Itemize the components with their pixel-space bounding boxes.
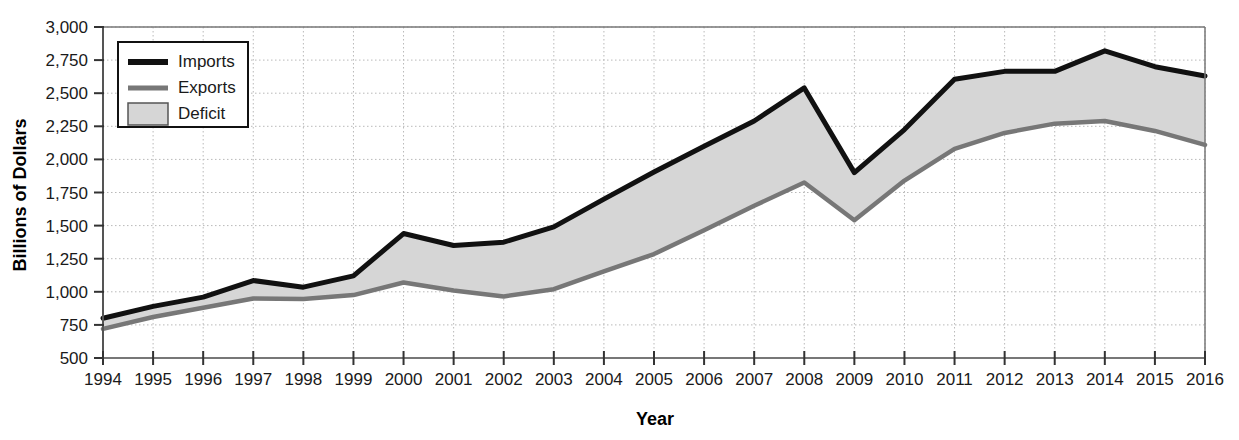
y-axis-tick-label: 1,000 xyxy=(45,283,88,302)
trade-balance-chart: 5007501,0001,2501,5001,7502,0002,2502,50… xyxy=(0,0,1239,440)
y-axis-tick-label: 2,750 xyxy=(45,51,88,70)
x-axis-tick-label: 2013 xyxy=(1036,370,1074,389)
x-axis-tick-label: 1997 xyxy=(234,370,272,389)
x-axis-tick-label: 2008 xyxy=(785,370,823,389)
x-axis-tick-label: 2005 xyxy=(635,370,673,389)
x-axis-tick-label: 1995 xyxy=(134,370,172,389)
x-axis-tick-label: 1999 xyxy=(335,370,373,389)
y-axis-tick-label: 1,750 xyxy=(45,184,88,203)
x-axis-tick-label: 2001 xyxy=(435,370,473,389)
legend-label-exports: Exports xyxy=(178,78,236,97)
legend-label-imports: Imports xyxy=(178,52,235,71)
y-axis-tick-label: 1,500 xyxy=(45,217,88,236)
y-axis-tick-label: 2,250 xyxy=(45,117,88,136)
x-axis-tick-label: 2007 xyxy=(735,370,773,389)
y-axis-title: Billions of Dollars xyxy=(10,118,30,271)
chart-legend: ImportsExportsDeficit xyxy=(118,42,248,127)
legend-items: ImportsExportsDeficit xyxy=(128,52,236,125)
x-axis-tick-label: 1994 xyxy=(84,370,122,389)
x-axis-tick-label: 2002 xyxy=(485,370,523,389)
x-axis-tick-label: 1996 xyxy=(184,370,222,389)
x-axis-tick-label: 2004 xyxy=(585,370,623,389)
y-axis-tick-label: 2,000 xyxy=(45,150,88,169)
y-axis-tick-label: 3,000 xyxy=(45,18,88,37)
y-axis-tick-label: 750 xyxy=(60,316,88,335)
x-axis-tick-label: 1998 xyxy=(284,370,322,389)
x-axis-tick-label: 2010 xyxy=(886,370,924,389)
legend-label-deficit: Deficit xyxy=(178,104,226,123)
x-axis-tick-label: 2000 xyxy=(385,370,423,389)
x-axis-tick-label: 2016 xyxy=(1186,370,1224,389)
y-axis-tick-label: 500 xyxy=(60,349,88,368)
x-axis-tick-label: 2014 xyxy=(1086,370,1124,389)
x-axis-tick-label: 2006 xyxy=(685,370,723,389)
x-axis-tick-label: 2012 xyxy=(986,370,1024,389)
x-axis-tick-label: 2011 xyxy=(936,370,973,389)
chart-canvas: 5007501,0001,2501,5001,7502,0002,2502,50… xyxy=(0,0,1239,440)
x-axis-tick-label: 2015 xyxy=(1136,370,1174,389)
x-axis-tick-label: 2009 xyxy=(835,370,873,389)
y-axis-tick-label: 1,250 xyxy=(45,250,88,269)
x-axis-title: Year xyxy=(636,409,674,429)
x-axis-tick-label: 2003 xyxy=(535,370,573,389)
legend-swatch-marker xyxy=(128,103,168,125)
y-axis-tick-label: 2,500 xyxy=(45,84,88,103)
